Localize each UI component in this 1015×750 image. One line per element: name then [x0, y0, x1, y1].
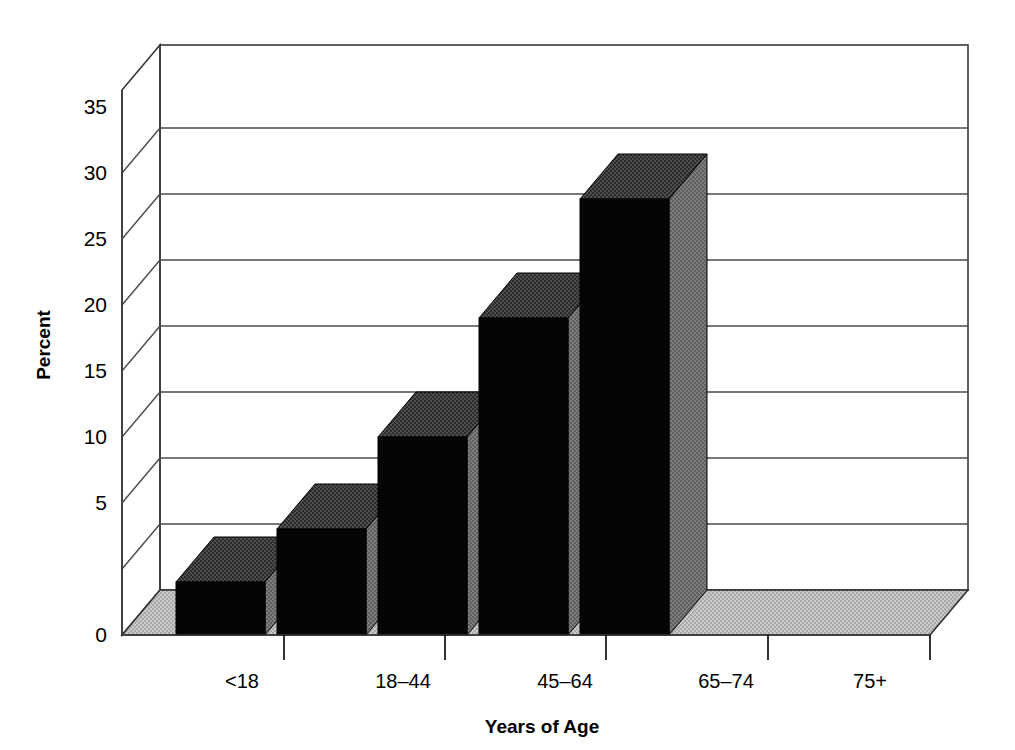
gridline-depth-35 — [122, 128, 160, 173]
y-tick-label-10: 10 — [84, 425, 107, 448]
x-tick-label-2: 45–64 — [537, 670, 593, 692]
x-axis — [122, 635, 930, 660]
gridline-depth-15 — [122, 392, 160, 437]
gridline-depth-5 — [122, 524, 160, 569]
x-tick-label-1: 18–44 — [375, 670, 431, 692]
y-tick-label-30: 30 — [84, 161, 107, 184]
bar-front-face-4[interactable] — [580, 199, 669, 635]
gridline-depth-25 — [122, 260, 160, 305]
y-tick-label-25: 25 — [84, 227, 107, 250]
bar-front-face-3[interactable] — [479, 318, 568, 635]
bar-side-face-4 — [669, 154, 707, 635]
y-tick-label-15: 15 — [84, 359, 107, 382]
bar-front-face-0[interactable] — [176, 582, 265, 635]
bar-chart-figure: 35 30 25 20 15 10 5 0 Percent — [0, 0, 1015, 750]
x-tick-label-3: 65–74 — [698, 670, 754, 692]
gridline-depth-20 — [122, 326, 160, 371]
x-axis-title-group: Years of Age — [485, 716, 599, 737]
y-tick-label-20: 20 — [84, 293, 107, 316]
bar-front-face-1[interactable] — [277, 529, 366, 635]
bar-group-4[interactable] — [580, 154, 707, 635]
x-axis-tick-labels: <18 18–44 45–64 65–74 75+ — [225, 670, 887, 692]
x-tick-label-4: 75+ — [853, 670, 887, 692]
gridline-depth-30 — [122, 194, 160, 239]
y-tick-label-35: 35 — [84, 95, 107, 118]
y-axis-tick-labels: 35 30 25 20 15 10 5 0 — [84, 95, 107, 646]
chart-canvas: 35 30 25 20 15 10 5 0 Percent — [0, 0, 1015, 750]
bar-front-face-2[interactable] — [378, 437, 467, 635]
y-tick-label-0: 0 — [95, 623, 107, 646]
x-axis-title: Years of Age — [485, 716, 599, 737]
gridline-depth-10 — [122, 458, 160, 503]
x-tick-label-0: <18 — [225, 670, 259, 692]
y-axis-title-group: Percent — [33, 309, 54, 379]
y-axis-title: Percent — [33, 309, 54, 379]
y-tick-label-5: 5 — [95, 491, 107, 514]
